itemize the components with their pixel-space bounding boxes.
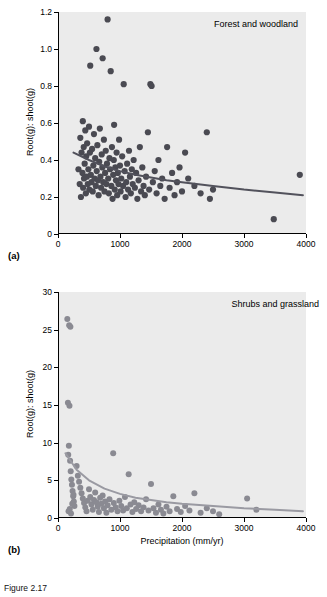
data-point [155, 501, 161, 507]
data-point [115, 508, 121, 514]
data-point [176, 164, 182, 170]
y-axis-line-a [58, 12, 59, 234]
data-point [89, 146, 95, 152]
x-tick-label: 0 [56, 524, 61, 533]
data-point [198, 510, 204, 516]
data-point [297, 172, 303, 178]
x-tick-mark [120, 234, 121, 238]
data-point [64, 316, 70, 322]
y-tick-label: 0.2 [40, 193, 52, 202]
x-tick-label: 3000 [235, 240, 254, 249]
x-tick-label: 1000 [111, 240, 130, 249]
data-point [78, 194, 84, 200]
data-point [69, 482, 75, 488]
panel-a-label: (a) [8, 250, 20, 261]
data-point [82, 161, 88, 167]
data-point [66, 443, 72, 449]
data-point [121, 81, 127, 87]
x-tick-mark [306, 234, 307, 238]
data-point [116, 498, 122, 504]
x-tick-label: 4000 [297, 524, 316, 533]
x-tick-mark [244, 518, 245, 522]
data-point [94, 142, 100, 148]
data-point [93, 183, 99, 189]
data-point [186, 507, 192, 513]
y-tick-mark [54, 160, 58, 161]
data-point [124, 161, 130, 167]
data-point [139, 164, 145, 170]
data-point [210, 187, 216, 193]
x-tick-label: 2000 [173, 524, 192, 533]
data-point [116, 137, 122, 143]
data-point [84, 508, 90, 514]
data-point [141, 504, 147, 510]
data-point [146, 187, 152, 193]
y-tick-mark [54, 367, 58, 368]
data-point [207, 196, 213, 202]
data-point [182, 150, 188, 156]
figure-root: 00.20.40.60.81.01.201000200030004000 Roo… [0, 0, 327, 597]
data-point [117, 162, 123, 168]
data-point [77, 485, 83, 491]
y-tick-mark [54, 292, 58, 293]
data-point [152, 168, 158, 174]
data-point [108, 68, 114, 74]
data-point [100, 492, 106, 498]
data-point [84, 140, 90, 146]
plot-wrapper-a: 00.20.40.60.81.01.201000200030004000 Roo… [58, 12, 306, 234]
data-point [101, 137, 107, 143]
data-point [164, 144, 170, 150]
data-point [150, 179, 156, 185]
data-point [109, 144, 115, 150]
data-point [119, 153, 125, 159]
x-tick-label: 1000 [111, 524, 130, 533]
data-point [128, 190, 134, 196]
panel-a-annotation: Forest and woodland [214, 19, 298, 29]
x-tick-mark [182, 518, 183, 522]
y-tick-mark [54, 86, 58, 87]
data-point [68, 477, 74, 483]
y-tick-label: 30 [43, 288, 52, 297]
data-point [142, 192, 148, 198]
data-point [90, 188, 96, 194]
data-point [118, 175, 124, 181]
y-tick-label: 5 [47, 476, 52, 485]
data-point [90, 507, 96, 513]
figure-caption: Figure 2.17 [4, 583, 324, 593]
data-point [68, 510, 74, 516]
y-tick-label: 0 [47, 514, 52, 523]
data-point [102, 170, 108, 176]
y-tick-label: 15 [43, 401, 52, 410]
data-point [106, 190, 112, 196]
y-tick-mark [54, 480, 58, 481]
data-point [97, 125, 103, 131]
data-point [126, 471, 132, 477]
data-point [80, 118, 86, 124]
data-point [171, 192, 177, 198]
x-tick-mark [244, 234, 245, 238]
data-point [134, 196, 140, 202]
data-point [86, 124, 92, 130]
data-point [71, 492, 77, 498]
x-tick-label: 4000 [297, 240, 316, 249]
y-tick-label: 0.8 [40, 82, 52, 91]
panel-b-label: (b) [8, 544, 20, 555]
data-point [155, 157, 161, 163]
data-point [69, 501, 75, 507]
data-point [67, 324, 73, 330]
x-tick-mark [306, 518, 307, 522]
data-point [162, 196, 168, 202]
data-point [160, 510, 166, 516]
data-point [118, 188, 124, 194]
chart-panel-b: 05101520253001000200030004000 Root(g): s… [0, 280, 327, 580]
data-point [100, 55, 106, 61]
data-point [153, 190, 159, 196]
data-point [170, 493, 176, 499]
data-point [137, 144, 143, 150]
data-point [271, 216, 277, 222]
data-point [123, 179, 129, 185]
y-tick-label: 25 [43, 325, 52, 334]
y-tick-mark [54, 443, 58, 444]
y-tick-mark [54, 330, 58, 331]
data-point [169, 170, 175, 176]
